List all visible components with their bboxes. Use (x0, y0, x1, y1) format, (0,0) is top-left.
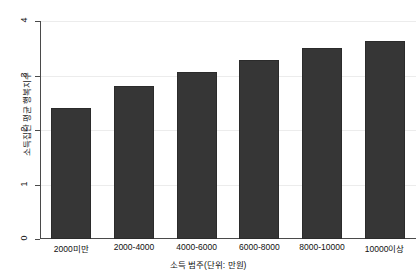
y-axis-tick-label: 4 (19, 12, 29, 28)
x-axis-tick-labels: 2000미만2000-40004000-60006000-80008000-10… (40, 242, 416, 256)
plot-area: 01234 (40, 21, 416, 239)
y-axis-tick (35, 130, 40, 131)
gridline (41, 130, 416, 131)
x-axis-tick-label: 4000-6000 (165, 242, 228, 252)
x-axis-tick-label: 10000이상 (353, 242, 416, 254)
gridline (41, 76, 416, 77)
gridline (41, 185, 416, 186)
y-axis-tick (35, 185, 40, 186)
x-axis-line (40, 238, 416, 239)
x-axis-tick-label: 2000미만 (40, 242, 103, 254)
bar (177, 72, 217, 239)
y-axis-tick-label: 2 (19, 121, 29, 137)
bar (365, 41, 405, 239)
y-axis-tick (35, 21, 40, 22)
y-axis-tick-label: 3 (19, 67, 29, 83)
bar-chart: 소득집단 평균 행복지수 01234 2000미만2000-40004000-6… (0, 0, 416, 279)
bar (51, 108, 91, 239)
y-axis-tick (35, 76, 40, 77)
x-axis-title: 소득 범주(단위: 만원) (0, 258, 416, 270)
bar (239, 60, 279, 239)
gridline (41, 21, 416, 22)
bar (302, 48, 342, 239)
y-axis-tick-label: 0 (19, 230, 29, 246)
x-axis-tick-label: 6000-8000 (228, 242, 291, 252)
bar (114, 86, 154, 239)
y-axis-tick (35, 239, 40, 240)
x-axis-tick-label: 8000-10000 (291, 242, 354, 252)
y-axis-tick-label: 1 (19, 176, 29, 192)
x-axis-tick-label: 2000-4000 (103, 242, 166, 252)
y-axis-title: 소득집단 평균 행복지수 (20, 34, 32, 194)
